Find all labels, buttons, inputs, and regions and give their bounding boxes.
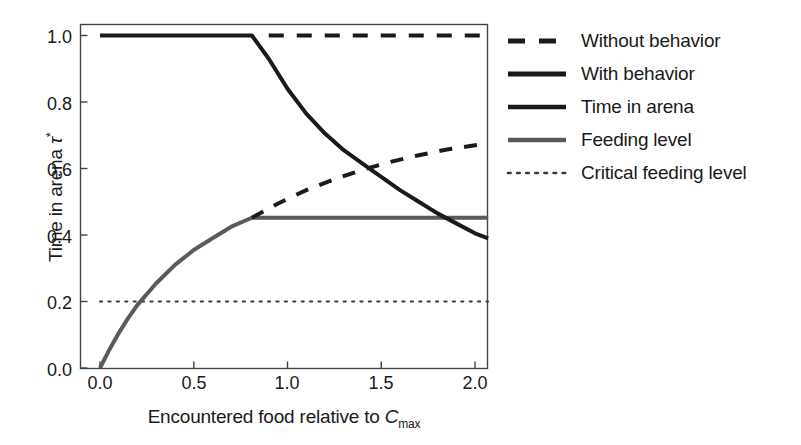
- axes-frame: [81, 25, 488, 369]
- legend-label: Without behavior: [581, 30, 720, 52]
- legend-label: Time in arena: [581, 96, 694, 118]
- legend-item-without-behavior: Without behavior: [506, 24, 796, 57]
- legend-swatch-solid-icon: [506, 99, 568, 115]
- legend-label: Critical feeding level: [581, 162, 747, 184]
- x-tick-marks: [100, 362, 475, 369]
- series-feeding-level: [100, 218, 488, 368]
- series-with-behavior: [100, 36, 488, 239]
- legend-swatch-gray-solid-icon: [506, 132, 568, 148]
- legend-item-with-behavior: With behavior: [506, 57, 796, 90]
- chart-legend: Without behavior With behavior Time in a…: [506, 24, 796, 189]
- legend-swatch-dotted-icon: [506, 165, 568, 181]
- legend-item-time-in-arena: Time in arena: [506, 90, 796, 123]
- legend-swatch-solid-thick-icon: [506, 66, 568, 82]
- y-tick-marks: [81, 36, 88, 369]
- legend-swatch-dashed-icon: [506, 33, 568, 49]
- legend-item-feeding-level: Feeding level: [506, 123, 796, 156]
- series-without-behavior-rising: [252, 144, 488, 218]
- series-group: [100, 36, 488, 369]
- legend-item-critical-feeding-level: Critical feeding level: [506, 156, 796, 189]
- legend-label: Feeding level: [581, 129, 691, 151]
- chart-figure: Time in arena τ* Encountered food relati…: [0, 0, 801, 445]
- legend-label: With behavior: [581, 63, 695, 85]
